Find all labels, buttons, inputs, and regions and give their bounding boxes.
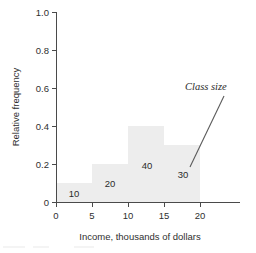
scan-artifact-left: [3, 246, 25, 248]
scan-artifact-mid: [33, 246, 49, 248]
y-tick-label-1_0: 1.0: [36, 7, 49, 18]
bar-label-10: 10: [69, 188, 80, 199]
bar-label-20: 20: [105, 178, 116, 189]
scan-artifact-right: [74, 246, 94, 248]
x-tick-label-20: 20: [195, 210, 206, 221]
y-tick-label-0: 0: [44, 197, 49, 208]
x-axis-title: Income, thousands of dollars: [79, 231, 201, 242]
y-tick-label-0_6: 0.6: [36, 83, 49, 94]
y-tick-label-0_2: 0.2: [36, 159, 49, 170]
y-tick-label-0_4: 0.4: [36, 121, 49, 132]
x-tick-label-10: 10: [123, 210, 134, 221]
y-axis: 1.0 0.8 0.6 0.4 0.2 0 Relative frequency: [10, 7, 57, 208]
annotation-text: Class size: [185, 81, 227, 92]
bar-label-30: 30: [178, 169, 189, 180]
histogram-figure: 1.0 0.8 0.6 0.4 0.2 0 Relative frequency…: [0, 0, 256, 253]
x-tick-label-5: 5: [89, 210, 94, 221]
x-axis: 0 5 10 15 20 Income, thousands of dollar…: [53, 203, 240, 243]
annotation-leader-line: [190, 96, 224, 167]
x-tick-label-0: 0: [53, 210, 58, 221]
bar-label-40: 40: [142, 160, 153, 171]
y-tick-label-0_8: 0.8: [36, 45, 49, 56]
y-axis-title: Relative frequency: [10, 67, 21, 146]
chart-canvas: 1.0 0.8 0.6 0.4 0.2 0 Relative frequency…: [0, 0, 256, 253]
x-tick-label-15: 15: [159, 210, 170, 221]
